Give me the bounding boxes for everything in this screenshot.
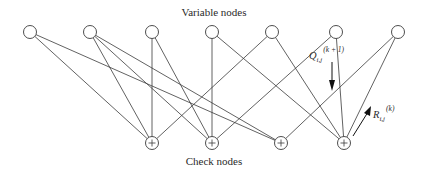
edge-v7-c4 (347, 38, 395, 137)
variable-node-v6 (330, 26, 343, 39)
r-arrow-head-icon (364, 106, 371, 116)
variable-node-v5 (266, 26, 279, 39)
edge-v1-c3 (36, 35, 275, 141)
r-message: Ri,j(k) (353, 104, 395, 136)
variable-node-v1 (24, 26, 37, 39)
r-message-label: Ri,j(k) (372, 104, 395, 123)
tanner-graph-diagram: Variable nodes Qi,j(k + 1) Ri,j(k) Check… (0, 0, 428, 171)
variable-node-v3 (146, 26, 159, 39)
q-message: Qi,j(k + 1) (309, 45, 345, 91)
check-node-c4 (338, 137, 351, 150)
q-arrow-head-icon (329, 80, 335, 91)
edge-v4-c4 (217, 36, 339, 139)
variable-node-v2 (84, 26, 97, 39)
check-nodes (146, 137, 351, 150)
variable-nodes-label: Variable nodes (181, 6, 246, 18)
check-node-c2 (206, 137, 219, 150)
check-nodes-label: Check nodes (186, 155, 243, 167)
edge-v2-c1 (93, 38, 149, 138)
edge-v2-c3 (96, 35, 276, 139)
r-arrow-shaft (353, 112, 368, 136)
edge-v1-c1 (35, 36, 147, 138)
check-node-c1 (146, 137, 159, 150)
check-node-c3 (275, 137, 288, 150)
variable-nodes (24, 26, 405, 39)
edge-v3-c2 (155, 38, 209, 138)
edge-v2-c2 (95, 36, 207, 138)
variable-node-v4 (206, 26, 219, 39)
variable-node-v7 (392, 26, 405, 39)
q-message-label: Qi,j(k + 1) (309, 45, 345, 64)
